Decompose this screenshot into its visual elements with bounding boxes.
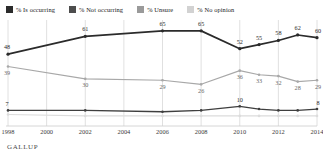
x-tick-2000: 2000	[40, 128, 53, 135]
data-point	[315, 36, 318, 39]
data-point	[161, 110, 164, 113]
data-point	[161, 115, 164, 118]
data-point	[84, 109, 87, 112]
point-value-label: 29	[315, 83, 321, 90]
data-point	[316, 115, 319, 118]
legend-item-not-occurring[interactable]: % Not occurring	[69, 6, 123, 13]
data-point	[7, 113, 10, 116]
point-value-label: 28	[295, 84, 301, 91]
x-tick-2012: 2012	[272, 128, 285, 135]
data-point	[238, 69, 241, 72]
point-value-label: 62	[295, 24, 301, 31]
x-tick-2004: 2004	[117, 128, 130, 135]
data-point	[296, 109, 299, 112]
data-point	[277, 39, 280, 42]
data-point	[161, 79, 164, 82]
x-tick-2010: 2010	[233, 128, 246, 135]
point-value-label: 10	[237, 96, 243, 103]
point-value-label: 65	[159, 20, 165, 27]
data-point	[84, 35, 87, 38]
data-point	[238, 47, 241, 50]
legend-label-is-occurring: % Is occurring	[16, 6, 55, 13]
data-point	[296, 80, 299, 83]
legend-label-not-occurring: % Not occurring	[79, 6, 123, 13]
x-tick-1998: 1998	[2, 128, 15, 135]
point-value-label: 7	[5, 100, 8, 107]
x-tick-2008: 2008	[195, 128, 208, 135]
legend-item-unsure[interactable]: % Unsure	[137, 6, 173, 13]
point-value-label: 8	[316, 99, 319, 106]
point-value-label: 61	[82, 25, 88, 32]
legend-swatch-no-opinion	[187, 6, 194, 13]
point-value-label: 52	[237, 38, 243, 45]
data-point	[6, 53, 9, 56]
legend-label-no-opinion: % No opinion	[197, 6, 234, 13]
point-value-label: 65	[198, 20, 204, 27]
legend-swatch-is-occurring	[6, 6, 13, 13]
data-point	[296, 115, 299, 118]
point-value-label: 26	[198, 87, 204, 94]
x-axis: 199820002002200420062008201020122014	[0, 128, 323, 141]
data-point	[200, 115, 203, 118]
x-tick-2002: 2002	[79, 128, 92, 135]
point-value-label: 55	[256, 34, 262, 41]
data-point	[238, 105, 241, 108]
point-value-label: 39	[4, 69, 10, 76]
plot-svg: 7108393029263633322829486165655255586260	[0, 18, 323, 128]
point-value-label: 58	[275, 29, 281, 36]
data-point	[316, 108, 319, 111]
point-value-label: 30	[82, 81, 88, 88]
point-value-label: 36	[237, 73, 243, 80]
data-point	[200, 29, 203, 32]
plot-area: 7108393029263633322829486165655255586260	[0, 18, 323, 128]
point-value-label: 48	[4, 43, 10, 50]
point-value-label: 33	[256, 77, 262, 84]
data-point	[200, 83, 203, 86]
source-attribution: GALLUP	[7, 143, 38, 151]
chart-legend: % Is occurring % Not occurring % Unsure …	[0, 0, 323, 18]
data-point	[258, 115, 261, 118]
data-point	[277, 75, 280, 78]
data-point	[84, 78, 87, 81]
data-point	[296, 33, 299, 36]
data-point	[7, 65, 10, 68]
data-point	[84, 115, 87, 118]
data-point	[7, 109, 10, 112]
legend-swatch-unsure	[137, 6, 144, 13]
x-tick-2006: 2006	[156, 128, 169, 135]
point-value-label: 29	[159, 83, 165, 90]
data-point	[257, 43, 260, 46]
data-point	[316, 79, 319, 82]
data-point	[277, 115, 280, 118]
gallup-line-chart: % Is occurring % Not occurring % Unsure …	[0, 0, 323, 157]
point-value-label: 60	[315, 27, 321, 34]
data-point	[200, 109, 203, 112]
data-point	[258, 73, 261, 76]
legend-item-no-opinion[interactable]: % No opinion	[187, 6, 234, 13]
data-point	[161, 29, 164, 32]
legend-swatch-not-occurring	[69, 6, 76, 13]
legend-item-is-occurring[interactable]: % Is occurring	[6, 6, 55, 13]
point-value-label: 32	[275, 79, 281, 86]
data-point	[258, 108, 261, 111]
legend-label-unsure: % Unsure	[147, 6, 173, 13]
x-tick-2014: 2014	[311, 128, 323, 135]
data-point	[238, 115, 241, 118]
data-point	[277, 109, 280, 112]
